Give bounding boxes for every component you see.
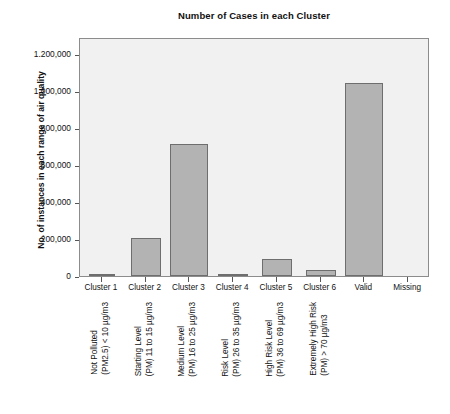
x-tick-mark	[363, 277, 364, 282]
x-descriptor-label: Starting Level(PM) 11 to 15 µg/m3	[134, 302, 155, 376]
bar-chart: Number of Cases in each Cluster No. of i…	[0, 0, 450, 414]
descriptor-line-1: High Risk Level	[265, 302, 276, 377]
y-tick: 600,000	[0, 166, 79, 167]
x-tick-mark	[101, 277, 102, 282]
descriptor-line-1: Extremely High Risk	[309, 302, 320, 376]
x-tick-label: Valid	[355, 283, 373, 292]
x-tick-label: Cluster 3	[172, 283, 205, 292]
y-tick-mark	[75, 129, 79, 130]
x-tick-label: Missing	[393, 283, 421, 292]
y-tick: 800,000	[0, 129, 79, 130]
x-descriptor-label: Not Polluted(PM2.5) < 10 µg/m3	[90, 302, 111, 375]
y-tick-label: 400,000	[41, 197, 71, 207]
descriptor-line-2: (PM) 11 to 15 µg/m3	[144, 302, 155, 376]
y-tick-mark	[75, 166, 79, 167]
bar	[170, 144, 208, 276]
x-descriptor-label: High Risk Level(PM) 36 to 69 µg/m3	[265, 302, 286, 377]
descriptor-line-1: Starting Level	[134, 302, 145, 376]
plot-area	[79, 38, 429, 277]
descriptor-line-2: (PM) 26 to 35 µg/m3	[232, 302, 243, 377]
x-tick-mark	[188, 277, 189, 282]
x-descriptor-label: Medium Level(PM) 16 to 25 µg/m3	[177, 302, 198, 377]
bar	[345, 83, 383, 276]
x-tick-label: Cluster 1	[84, 283, 117, 292]
x-tick-mark	[276, 277, 277, 282]
descriptor-line-2: (PM) 16 to 25 µg/m3	[188, 302, 199, 377]
y-tick-label: 0	[66, 271, 71, 281]
x-tick-label: Cluster 6	[303, 283, 336, 292]
bar	[306, 270, 336, 276]
y-tick: 400,000	[0, 203, 79, 204]
y-tick-mark	[75, 277, 79, 278]
descriptor-line-2: (PM2.5) < 10 µg/m3	[100, 302, 111, 375]
x-descriptor-label: Risk Level(PM) 26 to 35 µg/m3	[221, 302, 242, 377]
x-tick-label: Cluster 4	[216, 283, 249, 292]
chart-title: Number of Cases in each Cluster	[78, 10, 430, 21]
y-tick-label: 600,000	[41, 160, 71, 170]
y-tick-mark	[75, 92, 79, 93]
x-tick-mark	[320, 277, 321, 282]
x-tick-label: Cluster 2	[128, 283, 161, 292]
y-tick-label: 200,000	[41, 234, 71, 244]
descriptor-line-1: Medium Level	[177, 302, 188, 377]
y-tick: 0	[0, 277, 79, 278]
y-tick: 200,000	[0, 240, 79, 241]
x-tick-mark	[145, 277, 146, 282]
y-tick: 1.200,000	[0, 55, 79, 56]
x-tick-mark	[407, 277, 408, 282]
y-tick-mark	[75, 203, 79, 204]
y-tick: 1.000,000	[0, 92, 79, 93]
bar	[262, 259, 292, 276]
x-descriptor-label: Extremely High Risk(PM) > 70 µg/m3	[309, 302, 330, 376]
y-tick-mark	[75, 55, 79, 56]
y-tick-label: 1.000,000	[34, 86, 71, 96]
descriptor-line-1: Not Polluted	[90, 302, 101, 375]
descriptor-line-1: Risk Level	[221, 302, 232, 377]
descriptor-line-2: (PM) > 70 µg/m3	[319, 302, 330, 376]
bar	[89, 274, 115, 276]
y-tick-mark	[75, 240, 79, 241]
descriptor-line-2: (PM) 36 to 69 µg/m3	[275, 302, 286, 377]
x-tick-mark	[232, 277, 233, 282]
x-tick-label: Cluster 5	[259, 283, 292, 292]
y-tick-label: 1.200,000	[34, 49, 71, 59]
y-tick-label: 800,000	[41, 123, 71, 133]
bar	[131, 238, 161, 276]
bar	[218, 274, 248, 276]
